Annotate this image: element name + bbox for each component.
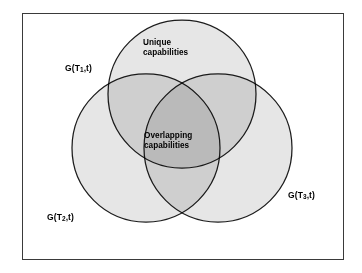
region-label-unique-line1: Unique [143, 38, 188, 48]
region-label-unique: Unique capabilities [143, 38, 188, 57]
set-label-t2: G(T2,t) [47, 212, 74, 223]
set-label-t1: G(T1,t) [65, 63, 92, 74]
region-label-overlapping: Overlapping capabilities [144, 131, 192, 150]
region-label-overlapping-line1: Overlapping [144, 131, 192, 141]
region-label-overlapping-line2: capabilities [144, 141, 192, 151]
set-label-t3: G(T3,t) [288, 190, 315, 201]
region-label-unique-line2: capabilities [143, 48, 188, 58]
figure-root: G(T1,t) G(T2,t) G(T3,t) Unique capabilit… [0, 0, 362, 273]
